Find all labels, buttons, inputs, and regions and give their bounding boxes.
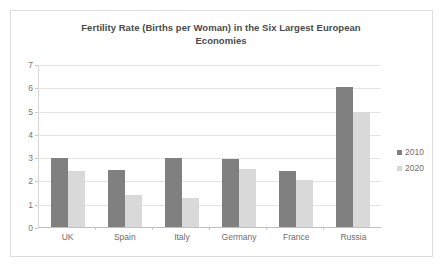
y-axis-tick-mark (35, 88, 38, 89)
bar-russia-2020[interactable] (353, 112, 370, 227)
legend-label: 2020 (405, 163, 424, 173)
bar-germany-2010[interactable] (222, 159, 239, 227)
bar-group-uk (39, 65, 96, 227)
bar-spain-2020[interactable] (125, 195, 142, 227)
square-marker (397, 166, 402, 171)
y-axis-tick-label: 3 (28, 153, 33, 163)
y-axis-tick-mark (35, 181, 38, 182)
chart-title-line-2: Economies (41, 34, 401, 47)
y-axis-tick-mark (35, 228, 38, 229)
x-axis-label-uk: UK (39, 232, 96, 242)
bar-spain-2010[interactable] (108, 170, 125, 227)
legend-label: 2010 (405, 147, 424, 157)
bar-france-2010[interactable] (279, 171, 296, 227)
bar-group-spain (96, 65, 153, 227)
bar-group-france (267, 65, 324, 227)
x-axis-tick-mark (323, 227, 324, 230)
bar-france-2020[interactable] (296, 180, 313, 227)
y-axis-tick-label: 0 (28, 223, 33, 233)
y-axis-tick-label: 5 (28, 107, 33, 117)
chart-title: Fertility Rate (Births per Woman) in the… (41, 21, 401, 47)
x-axis-label-france: France (268, 232, 325, 242)
y-axis-tick-label: 1 (28, 200, 33, 210)
bar-group-germany (210, 65, 267, 227)
chart-container: Fertility Rate (Births per Woman) in the… (10, 10, 433, 257)
legend-item-2010[interactable]: 2010 (397, 144, 443, 160)
x-axis-label-germany: Germany (211, 232, 268, 242)
bar-italy-2010[interactable] (165, 158, 182, 227)
plot-area: 01234567 (38, 65, 381, 228)
bars-layer (39, 65, 381, 227)
chart-title-line-1: Fertility Rate (Births per Woman) in the… (41, 21, 401, 34)
y-axis-tick-mark (35, 205, 38, 206)
bar-uk-2010[interactable] (51, 158, 68, 227)
bar-germany-2020[interactable] (239, 169, 256, 227)
x-axis-label-russia: Russia (325, 232, 382, 242)
x-axis-tick-mark (152, 227, 153, 230)
bar-uk-2020[interactable] (68, 171, 85, 227)
x-axis-label-spain: Spain (96, 232, 153, 242)
bar-group-russia (324, 65, 381, 227)
legend-item-2020[interactable]: 2020 (397, 160, 443, 176)
square-marker (397, 150, 402, 155)
bar-italy-2020[interactable] (182, 198, 199, 227)
y-axis-tick-mark (35, 112, 38, 113)
bar-group-italy (153, 65, 210, 227)
chart-legend: 20102020 (397, 144, 443, 176)
x-axis-label-italy: Italy (153, 232, 210, 242)
bar-russia-2010[interactable] (336, 87, 353, 227)
plot-inner: 01234567 (38, 65, 381, 228)
x-axis-labels: UKSpainItalyGermanyFranceRussia (39, 232, 382, 242)
x-axis-tick-mark (266, 227, 267, 230)
y-axis-tick-label: 4 (28, 130, 33, 140)
x-axis-tick-mark (95, 227, 96, 230)
y-axis-tick-label: 2 (28, 176, 33, 186)
y-axis-tick-label: 6 (28, 83, 33, 93)
y-axis-tick-mark (35, 135, 38, 136)
y-axis-tick-mark (35, 158, 38, 159)
y-axis-tick-label: 7 (28, 60, 33, 70)
y-axis-tick-mark (35, 65, 38, 66)
x-axis-tick-mark (209, 227, 210, 230)
